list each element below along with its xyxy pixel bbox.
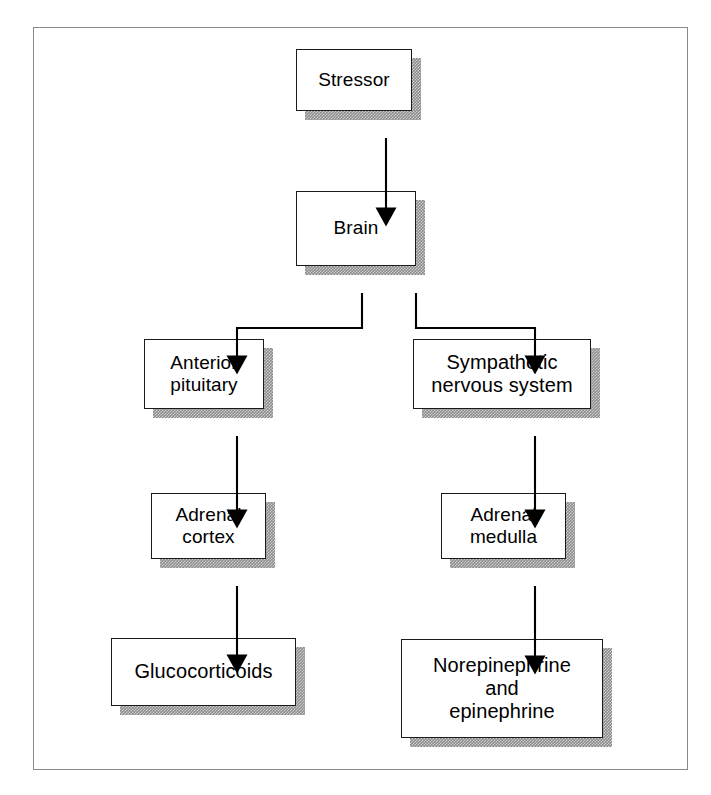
node-stressor[interactable]: Stressor [296, 49, 412, 111]
node-label: Glucocorticoids [134, 660, 272, 683]
node-brain[interactable]: Brain [296, 191, 416, 266]
node-label: Brain [334, 217, 379, 239]
node-label: Adrenal medulla [470, 504, 537, 548]
node-sympathetic-nervous-system[interactable]: Sympathetic nervous system [413, 339, 591, 409]
node-face: Adrenal medulla [441, 493, 566, 559]
node-face: Adrenal cortex [151, 493, 266, 559]
node-glucocorticoids[interactable]: Glucocorticoids [111, 638, 296, 706]
node-adrenal-cortex[interactable]: Adrenal cortex [151, 493, 266, 559]
node-label: Norepinephrine and epinephrine [433, 654, 571, 724]
node-anterior-pituitary[interactable]: Anterior pituitary [144, 339, 264, 409]
node-face: Norepinephrine and epinephrine [401, 639, 603, 738]
node-label: Stressor [318, 69, 390, 91]
node-face: Brain [296, 191, 416, 266]
node-face: Stressor [296, 49, 412, 111]
node-label: Sympathetic nervous system [431, 351, 572, 397]
node-adrenal-medulla[interactable]: Adrenal medulla [441, 493, 566, 559]
node-face: Glucocorticoids [111, 638, 296, 706]
node-label: Anterior pituitary [170, 352, 237, 396]
node-label: Adrenal cortex [175, 504, 241, 548]
node-face: Sympathetic nervous system [413, 339, 591, 409]
node-face: Anterior pituitary [144, 339, 264, 409]
figure-frame: Stressor Brain Anterior pituitary Sympat… [33, 27, 688, 770]
node-norepinephrine-and-epinephrine[interactable]: Norepinephrine and epinephrine [401, 639, 603, 738]
